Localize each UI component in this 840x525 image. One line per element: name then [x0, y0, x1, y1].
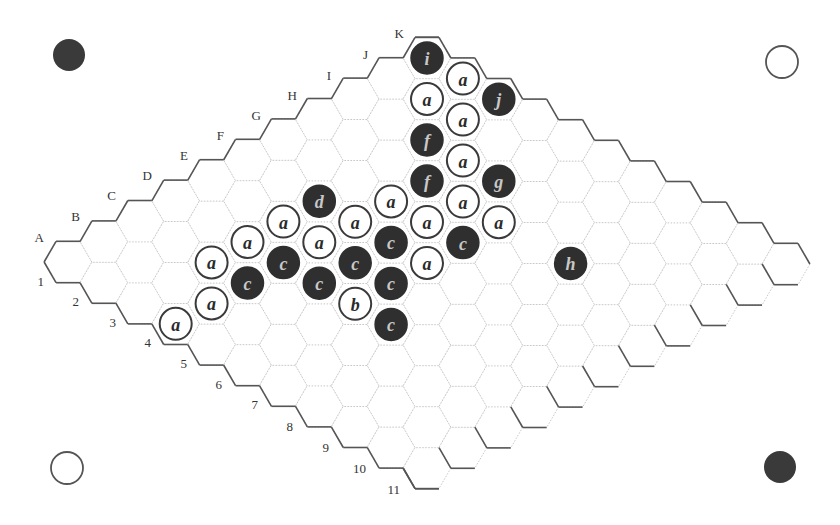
stone-label: a	[387, 192, 396, 212]
stone-white-D6: b	[339, 288, 371, 320]
stone-label: a	[243, 233, 252, 253]
stone-white-C3: a	[196, 246, 228, 278]
column-label-B: B	[71, 209, 80, 224]
column-label-E: E	[180, 148, 188, 163]
column-label-I: I	[327, 68, 331, 83]
stone-white-D3: a	[232, 226, 264, 258]
row-label-11: 11	[387, 482, 400, 497]
stone-label: c	[244, 274, 252, 294]
row-label-9: 9	[323, 440, 330, 455]
row-label-2: 2	[73, 294, 80, 309]
stone-white-E3: a	[267, 206, 299, 238]
hex-board: ABCDEFGHIJK1234567891011 aaacacadacacbac…	[0, 0, 840, 525]
stone-label: c	[387, 315, 395, 335]
stone-label: a	[171, 315, 180, 335]
stone-white-I4: a	[447, 145, 479, 177]
stone-label: a	[458, 70, 467, 90]
stone-black-H4: f	[411, 165, 443, 197]
stone-black-D5: c	[303, 267, 335, 299]
stone-white-B4: a	[196, 287, 228, 319]
corner-marker-top-left-black-icon	[53, 39, 85, 71]
stone-white-F6: a	[411, 247, 443, 279]
column-label-J: J	[363, 47, 368, 62]
stone-white-E4: a	[303, 226, 335, 258]
stone-white-H5: a	[447, 186, 479, 218]
stone-black-I5: g	[483, 165, 515, 197]
row-label-6: 6	[216, 377, 223, 392]
corner-marker-bottom-right-black-icon	[764, 451, 796, 483]
stone-label: c	[279, 254, 287, 274]
stone-label: a	[351, 213, 360, 233]
stone-white-G5: a	[411, 206, 443, 238]
row-label-3: 3	[110, 315, 117, 330]
row-label-4: 4	[145, 335, 152, 350]
stone-white-G4: a	[375, 185, 407, 217]
stone-label: d	[315, 192, 325, 212]
row-label-8: 8	[287, 419, 294, 434]
stone-white-A4: a	[160, 308, 192, 340]
stone-label: a	[279, 213, 288, 233]
stone-label: a	[494, 213, 503, 233]
stone-black-G6: c	[447, 227, 479, 259]
stone-black-C4: c	[232, 267, 264, 299]
stone-black-H8: h	[555, 247, 587, 279]
stone-black-K1: i	[411, 42, 443, 74]
stone-label: a	[207, 253, 216, 273]
column-label-A: A	[35, 230, 45, 245]
stone-label: c	[315, 274, 323, 294]
stone-black-D7: c	[375, 308, 407, 340]
column-label-K: K	[395, 26, 405, 41]
stone-black-F5: c	[375, 226, 407, 258]
stone-label: c	[387, 274, 395, 294]
stone-label: i	[424, 49, 429, 69]
stone-white-J2: a	[411, 83, 443, 115]
row-label-7: 7	[252, 397, 259, 412]
stone-black-K3: j	[483, 83, 515, 115]
stone-black-I3: f	[411, 124, 443, 156]
stone-label: a	[207, 294, 216, 314]
stone-label: h	[566, 254, 576, 274]
stone-white-F4: a	[339, 206, 371, 238]
stone-white-H6: a	[483, 206, 515, 238]
stone-label: a	[423, 90, 432, 110]
row-label-10: 10	[353, 461, 366, 476]
column-label-H: H	[288, 88, 297, 103]
stone-black-F3: d	[303, 185, 335, 217]
stone-white-K2: a	[447, 63, 479, 95]
stone-label: a	[423, 213, 432, 233]
stone-label: g	[493, 172, 503, 192]
stone-white-J3: a	[447, 104, 479, 136]
stone-label: c	[387, 233, 395, 253]
row-label-5: 5	[181, 356, 188, 371]
column-label-C: C	[107, 188, 116, 203]
corner-marker-bottom-left-white-icon	[51, 452, 83, 484]
stone-label: a	[315, 233, 324, 253]
stone-label: a	[458, 111, 467, 131]
column-label-F: F	[217, 128, 224, 143]
stone-black-D4: c	[267, 247, 299, 279]
stone-label: a	[458, 152, 467, 172]
column-label-G: G	[252, 108, 261, 123]
corner-marker-top-right-white-icon	[766, 46, 798, 78]
stone-black-E5: c	[339, 247, 371, 279]
stone-label: a	[423, 254, 432, 274]
stone-label: b	[351, 295, 360, 315]
stone-label: c	[351, 254, 359, 274]
stone-label: c	[459, 234, 467, 254]
stone-black-E6: c	[375, 267, 407, 299]
row-label-1: 1	[38, 274, 45, 289]
column-label-D: D	[143, 168, 152, 183]
stone-label: a	[458, 193, 467, 213]
